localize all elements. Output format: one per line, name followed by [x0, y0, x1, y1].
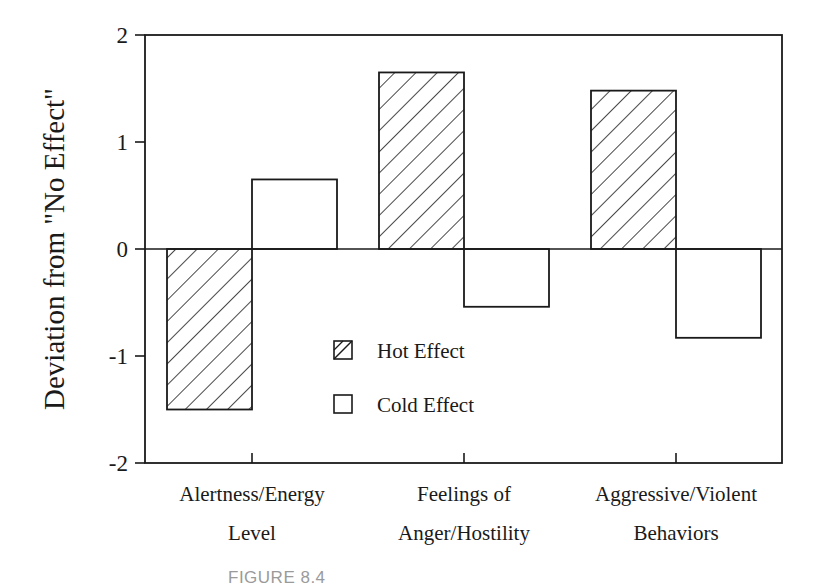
y-tick-label: 1	[117, 130, 129, 155]
legend-item-cold: Cold Effect	[334, 393, 474, 417]
category-label-line2: Anger/Hostility	[398, 521, 530, 545]
category-label-line1: Feelings of	[417, 482, 511, 506]
x-axis	[252, 453, 676, 463]
legend-label: Cold Effect	[377, 393, 474, 417]
hot-effect-bar	[167, 249, 252, 410]
category-label-line2: Level	[228, 521, 276, 545]
category-label-line1: Alertness/Energy	[179, 482, 325, 506]
y-tick-label: 2	[117, 23, 129, 48]
cold-effect-bar	[676, 249, 761, 338]
y-tick-label: 0	[117, 237, 129, 262]
hot-effect-bar	[591, 91, 676, 249]
legend: Hot Effect Cold Effect	[334, 339, 474, 417]
legend-label: Hot Effect	[377, 339, 465, 363]
y-tick-label: -2	[109, 451, 128, 476]
y-axis: 2 1 0 -1 -2	[109, 23, 145, 476]
figure-caption: FIGURE 8.4	[228, 568, 326, 587]
y-tick-label: -1	[109, 344, 128, 369]
cold-effect-bar	[464, 249, 549, 307]
category-label-line2: Behaviors	[633, 521, 718, 545]
empty-swatch-icon	[334, 395, 352, 413]
y-axis-title: Deviation from "No Effect"	[38, 88, 70, 410]
legend-item-hot: Hot Effect	[334, 339, 465, 363]
hot-effect-bar	[379, 72, 464, 249]
category-label-line1: Aggressive/Violent	[595, 482, 757, 506]
category-labels: Alertness/Energy Level Feelings of Anger…	[179, 482, 757, 545]
cold-effect-bar	[252, 179, 337, 249]
